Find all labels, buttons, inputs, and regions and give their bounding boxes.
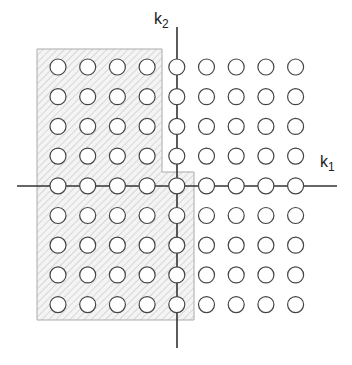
- lattice-point: [258, 297, 274, 313]
- lattice-point: [169, 178, 185, 194]
- lattice-point: [80, 178, 96, 194]
- lattice-point: [139, 59, 155, 75]
- lattice-diagram: [0, 0, 352, 365]
- lattice-point: [228, 148, 244, 164]
- lattice-point: [50, 267, 66, 283]
- lattice-point: [50, 237, 66, 253]
- lattice-point: [288, 267, 304, 283]
- lattice-point: [50, 89, 66, 105]
- lattice-point: [50, 148, 66, 164]
- lattice-point: [258, 267, 274, 283]
- lattice-point: [288, 178, 304, 194]
- lattice-point: [169, 59, 185, 75]
- lattice-point: [258, 148, 274, 164]
- k2-axis-label: k2: [154, 10, 169, 31]
- lattice-point: [80, 148, 96, 164]
- lattice-point: [80, 267, 96, 283]
- lattice-point: [50, 208, 66, 224]
- lattice-point: [258, 237, 274, 253]
- lattice-point: [199, 89, 215, 105]
- lattice-point: [228, 118, 244, 134]
- lattice-point: [50, 297, 66, 313]
- lattice-point: [228, 267, 244, 283]
- lattice-point: [169, 118, 185, 134]
- lattice-point: [139, 267, 155, 283]
- lattice-point: [169, 208, 185, 224]
- lattice-point: [169, 237, 185, 253]
- lattice-point: [80, 208, 96, 224]
- lattice-point: [109, 267, 125, 283]
- lattice-point: [139, 89, 155, 105]
- lattice-point: [228, 237, 244, 253]
- lattice-point: [50, 118, 66, 134]
- lattice-point: [288, 89, 304, 105]
- lattice-point: [80, 237, 96, 253]
- lattice-point: [109, 89, 125, 105]
- lattice-point: [258, 118, 274, 134]
- lattice-point: [199, 208, 215, 224]
- lattice-point: [258, 178, 274, 194]
- lattice-point: [199, 297, 215, 313]
- lattice-point: [80, 297, 96, 313]
- lattice-point: [169, 89, 185, 105]
- lattice-point: [228, 297, 244, 313]
- lattice-point: [109, 59, 125, 75]
- lattice-point: [288, 208, 304, 224]
- lattice-point: [288, 118, 304, 134]
- lattice-point: [258, 208, 274, 224]
- lattice-point: [139, 118, 155, 134]
- lattice-point: [109, 297, 125, 313]
- lattice-point: [80, 89, 96, 105]
- lattice-point: [228, 208, 244, 224]
- lattice-point: [258, 89, 274, 105]
- lattice-point: [288, 297, 304, 313]
- lattice-point: [288, 59, 304, 75]
- lattice-point: [80, 59, 96, 75]
- lattice-point: [109, 118, 125, 134]
- lattice-point: [258, 59, 274, 75]
- lattice-point: [80, 118, 96, 134]
- lattice-point: [50, 59, 66, 75]
- lattice-point: [50, 178, 66, 194]
- lattice-point: [199, 178, 215, 194]
- lattice-point: [199, 59, 215, 75]
- lattice-point: [109, 237, 125, 253]
- lattice-point: [169, 148, 185, 164]
- lattice-point: [109, 148, 125, 164]
- lattice-point: [139, 148, 155, 164]
- lattice-point: [139, 208, 155, 224]
- lattice-point: [169, 297, 185, 313]
- lattice-point: [199, 148, 215, 164]
- lattice-point: [199, 267, 215, 283]
- lattice-point: [109, 208, 125, 224]
- lattice-point: [109, 178, 125, 194]
- lattice-point: [199, 237, 215, 253]
- lattice-point: [139, 297, 155, 313]
- lattice-point: [139, 237, 155, 253]
- lattice-point: [288, 148, 304, 164]
- lattice-point: [228, 59, 244, 75]
- lattice-point: [139, 178, 155, 194]
- lattice-point: [199, 118, 215, 134]
- lattice-point: [288, 237, 304, 253]
- lattice-point: [169, 267, 185, 283]
- lattice-point: [228, 178, 244, 194]
- lattice-points: [50, 59, 304, 313]
- k1-axis-label: k1: [320, 153, 335, 174]
- lattice-point: [228, 89, 244, 105]
